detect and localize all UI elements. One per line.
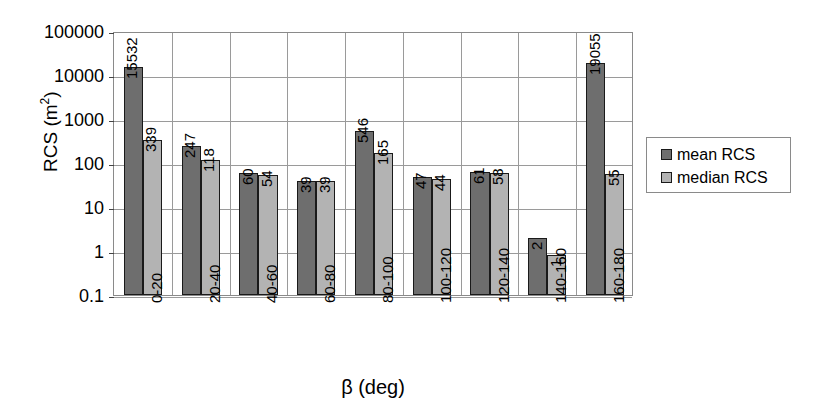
bar-value-label: 39	[317, 176, 332, 193]
x-axis-tick-label: 20-40	[207, 265, 222, 303]
bar-median-0-20	[143, 140, 162, 295]
bar-mean-100-120	[413, 177, 432, 295]
bar-value-label: 54	[259, 170, 274, 187]
bar-value-label: 60	[240, 168, 255, 185]
bar-value-label: 165	[375, 140, 390, 165]
vertical-gridline	[403, 33, 404, 295]
horizontal-gridline	[114, 121, 632, 122]
vertical-gridline	[345, 33, 346, 295]
chart-legend: mean RCSmedian RCS	[646, 137, 791, 193]
y-axis-tick-label: 10	[20, 199, 104, 217]
bar-value-label: 546	[355, 118, 370, 143]
y-axis-tick-mark	[109, 253, 114, 254]
x-axis-tick-label: 140-160	[553, 248, 568, 303]
bar-mean-120-140	[470, 172, 489, 295]
vertical-gridline	[576, 33, 577, 295]
legend-swatch-icon	[661, 149, 672, 160]
y-axis-tick-labels: 1000001000010001001010.1	[16, 0, 104, 418]
bar-value-label: 15532	[124, 37, 139, 79]
bar-mean-160-180	[586, 63, 605, 295]
horizontal-gridline	[114, 77, 632, 78]
y-axis-tick-mark	[109, 209, 114, 210]
bar-mean-0-20	[124, 67, 143, 295]
bar-value-label: 2	[529, 241, 544, 249]
y-axis-tick-label: 100000	[20, 23, 104, 41]
vertical-gridline	[461, 33, 462, 295]
bar-value-label: 47	[413, 173, 428, 190]
x-axis-tick-label: 160-180	[611, 248, 626, 303]
vertical-gridline	[172, 33, 173, 295]
y-axis-tick-mark	[109, 297, 114, 298]
bar-value-label: 247	[182, 133, 197, 158]
bar-value-label: 19055	[587, 33, 602, 75]
x-axis-tick-label: 0-20	[149, 273, 164, 303]
x-axis-tick-label: 80-100	[380, 256, 395, 303]
bar-mean-40-60	[239, 173, 258, 295]
x-axis-tick-label: 40-60	[264, 265, 279, 303]
bar-mean-80-100	[355, 131, 374, 295]
y-axis-tick-label: 0.1	[20, 287, 104, 305]
y-axis-tick-label: 100	[20, 155, 104, 173]
legend-swatch-icon	[661, 172, 672, 183]
bar-value-label: 44	[432, 174, 447, 191]
bar-value-label: 339	[143, 127, 158, 152]
bar-value-label: 55	[606, 170, 621, 187]
bar-value-label: 118	[201, 148, 216, 172]
x-axis-tick-label: 120-140	[496, 248, 511, 303]
legend-label: median RCS	[677, 170, 768, 186]
legend-item-mean[interactable]: mean RCS	[661, 144, 790, 165]
bar-value-label: 39	[298, 176, 313, 193]
y-axis-tick-mark	[109, 121, 114, 122]
y-axis-tick-mark	[109, 33, 114, 34]
x-axis-tick-label: 60-80	[322, 265, 337, 303]
y-axis-tick-mark	[109, 165, 114, 166]
rcs-bar-chart: RCS (m2) 1000001000010001001010.1 155323…	[0, 0, 820, 418]
legend-item-median[interactable]: median RCS	[661, 167, 790, 188]
vertical-gridline	[230, 33, 231, 295]
vertical-gridline	[287, 33, 288, 295]
bar-mean-60-80	[297, 181, 316, 295]
y-axis-tick-label: 1	[20, 243, 104, 261]
bar-mean-20-40	[182, 146, 201, 295]
y-axis-tick-label: 10000	[20, 67, 104, 85]
x-axis-tick-label: 100-120	[438, 248, 453, 303]
bar-value-label: 61	[471, 168, 486, 185]
legend-label: mean RCS	[677, 147, 755, 163]
bar-value-label: 58	[490, 169, 505, 186]
vertical-gridline	[518, 33, 519, 295]
x-axis-title: β (deg)	[113, 376, 633, 399]
y-axis-tick-mark	[109, 77, 114, 78]
y-axis-tick-label: 1000	[20, 111, 104, 129]
